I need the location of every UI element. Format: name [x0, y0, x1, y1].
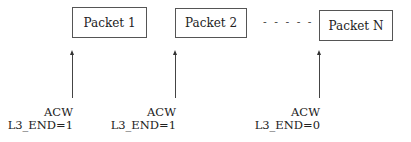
pointer-n-l3end: L3_END=0 — [240, 119, 320, 132]
pointer-1-l3end: L3_END=1 — [0, 119, 73, 132]
pointer-2-l3end: L3_END=1 — [96, 119, 176, 132]
packet-1-label: Packet 1 — [83, 16, 135, 30]
packet-2-box: Packet 2 — [175, 8, 247, 38]
pointer-1-label: ACW L3_END=1 — [0, 106, 73, 132]
up-arrow-icon — [72, 54, 73, 98]
packet-1-box: Packet 1 — [72, 7, 147, 38]
packet-n-box: Packet N — [319, 10, 393, 41]
pointer-2-label: ACW L3_END=1 — [96, 106, 176, 132]
up-arrow-icon — [175, 54, 176, 98]
packet-n-label: Packet N — [329, 19, 384, 33]
packet-2-label: Packet 2 — [185, 16, 237, 30]
up-arrow-icon — [319, 54, 320, 98]
pointer-n-label: ACW L3_END=0 — [240, 106, 320, 132]
ellipsis-dashes: - - - - - — [263, 16, 314, 29]
